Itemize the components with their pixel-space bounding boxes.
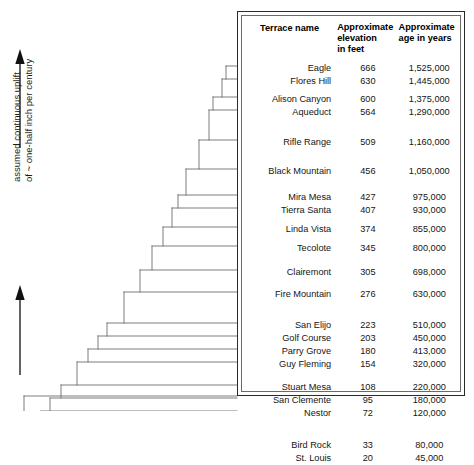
cell-elevation: 666 xyxy=(337,62,398,75)
cell-terrace-name: Eagle xyxy=(242,62,337,75)
table-row[interactable]: Black Mountain4561,050,000 xyxy=(242,165,460,178)
cell-terrace-name: Stuart Mesa xyxy=(242,381,337,394)
column-header-terrace-name: Terrace name xyxy=(242,22,337,62)
table-row[interactable]: Tecolote345800,000 xyxy=(242,242,460,255)
cell-terrace-name: St. Louis xyxy=(242,452,337,465)
table-row[interactable]: Linda Vista374855,000 xyxy=(242,223,460,236)
cell-elevation: 600 xyxy=(337,93,398,106)
column-header-elevation-line1: Approximate xyxy=(337,22,398,33)
table-row[interactable]: Alison Canyon6001,375,000 xyxy=(242,93,460,106)
cell-age: 320,000 xyxy=(399,358,460,371)
cell-elevation: 95 xyxy=(337,394,398,407)
column-header-age-line2: age in years xyxy=(399,33,460,44)
column-header-elevation-line2: elevation xyxy=(337,33,398,44)
table-row[interactable]: Bird Rock3380,000 xyxy=(242,439,460,452)
table-row[interactable]: San Clemente95180,000 xyxy=(242,394,460,407)
cell-age: 1,375,000 xyxy=(399,93,460,106)
cell-elevation: 509 xyxy=(337,136,398,149)
cell-terrace-name: Flores Hill xyxy=(242,75,337,88)
cell-age: 1,160,000 xyxy=(399,136,460,149)
table-row[interactable]: Aqueduct5641,290,000 xyxy=(242,106,460,119)
cell-terrace-name: Nestor xyxy=(242,407,337,420)
cell-terrace-name: Golf Course xyxy=(242,332,337,345)
cell-terrace-name: Tecolote xyxy=(242,242,337,255)
table-row[interactable]: Clairemont305698,000 xyxy=(242,266,460,279)
table-body: Eagle6661,525,000Flores Hill6301,445,000… xyxy=(242,62,460,391)
cell-elevation: 374 xyxy=(337,223,398,236)
table-row[interactable]: Fire Mountain276630,000 xyxy=(242,288,460,301)
cell-elevation: 305 xyxy=(337,266,398,279)
staircase-steps xyxy=(24,66,237,411)
cell-terrace-name: Fire Mountain xyxy=(242,288,337,301)
cell-terrace-name: Black Mountain xyxy=(242,165,337,178)
cell-elevation: 223 xyxy=(337,319,398,332)
cell-age: 1,050,000 xyxy=(399,165,460,178)
cell-age: 930,000 xyxy=(399,204,460,217)
cell-terrace-name: Aqueduct xyxy=(242,106,337,119)
cell-age: 800,000 xyxy=(399,242,460,255)
table-row[interactable]: Rifle Range5091,160,000 xyxy=(242,136,460,149)
cell-elevation: 20 xyxy=(337,452,398,465)
cell-terrace-name: Parry Grove xyxy=(242,345,337,358)
cell-terrace-name: San Clemente xyxy=(242,394,337,407)
table-row[interactable]: Guy Fleming154320,000 xyxy=(242,358,460,371)
table-row[interactable]: San Elijo223510,000 xyxy=(242,319,460,332)
table-header-row: Terrace name Approximate elevation in fe… xyxy=(242,16,460,62)
table-row[interactable]: Parry Grove180413,000 xyxy=(242,345,460,358)
cell-elevation: 630 xyxy=(337,75,398,88)
terrace-table-inner-border: Terrace name Approximate elevation in fe… xyxy=(241,15,461,392)
cell-elevation: 154 xyxy=(337,358,398,371)
cell-age: 510,000 xyxy=(399,319,460,332)
cell-terrace-name: Linda Vista xyxy=(242,223,337,236)
column-header-age-line1: Approximate xyxy=(399,22,460,33)
cell-age: 975,000 xyxy=(399,191,460,204)
cell-terrace-name: Tierra Santa xyxy=(242,204,337,217)
cell-age: 413,000 xyxy=(399,345,460,358)
table-row[interactable]: Tierra Santa407930,000 xyxy=(242,204,460,217)
cell-elevation: 72 xyxy=(337,407,398,420)
cell-elevation: 203 xyxy=(337,332,398,345)
table-row[interactable]: Golf Course203450,000 xyxy=(242,332,460,345)
column-header-age: Approximate age in years xyxy=(399,22,460,62)
cell-age: 1,445,000 xyxy=(399,75,460,88)
cell-terrace-name: San Elijo xyxy=(242,319,337,332)
terrace-table: Terrace name Approximate elevation in fe… xyxy=(237,11,465,396)
cell-elevation: 276 xyxy=(337,288,398,301)
table-row[interactable]: Nestor72120,000 xyxy=(242,407,460,420)
cell-elevation: 456 xyxy=(337,165,398,178)
column-header-elevation-line3: in feet xyxy=(337,44,398,55)
cell-age: 180,000 xyxy=(399,394,460,407)
cell-age: 1,525,000 xyxy=(399,62,460,75)
cell-age: 450,000 xyxy=(399,332,460,345)
cell-age: 45,000 xyxy=(399,452,460,465)
cell-elevation: 564 xyxy=(337,106,398,119)
cell-elevation: 33 xyxy=(337,439,398,452)
table-row[interactable]: St. Louis2045,000 xyxy=(242,452,460,465)
cell-elevation: 427 xyxy=(337,191,398,204)
cell-elevation: 180 xyxy=(337,345,398,358)
cell-age: 120,000 xyxy=(399,407,460,420)
cell-elevation: 407 xyxy=(337,204,398,217)
cell-elevation: 108 xyxy=(337,381,398,394)
cell-age: 630,000 xyxy=(399,288,460,301)
cell-terrace-name: Alison Canyon xyxy=(242,93,337,106)
cell-age: 855,000 xyxy=(399,223,460,236)
cell-terrace-name: Rifle Range xyxy=(242,136,337,149)
table-row[interactable]: Flores Hill6301,445,000 xyxy=(242,75,460,88)
cell-age: 220,000 xyxy=(399,381,460,394)
cell-terrace-name: Guy Fleming xyxy=(242,358,337,371)
cell-terrace-name: Clairemont xyxy=(242,266,337,279)
table-row[interactable]: Stuart Mesa108220,000 xyxy=(242,381,460,394)
cell-elevation: 345 xyxy=(337,242,398,255)
table-row[interactable]: Mira Mesa427975,000 xyxy=(242,191,460,204)
cell-terrace-name: Bird Rock xyxy=(242,439,337,452)
cell-terrace-name: Mira Mesa xyxy=(242,191,337,204)
cell-age: 80,000 xyxy=(399,439,460,452)
cell-age: 698,000 xyxy=(399,266,460,279)
table-row[interactable]: Eagle6661,525,000 xyxy=(242,62,460,75)
cell-age: 1,290,000 xyxy=(399,106,460,119)
column-header-elevation: Approximate elevation in feet xyxy=(337,22,398,62)
